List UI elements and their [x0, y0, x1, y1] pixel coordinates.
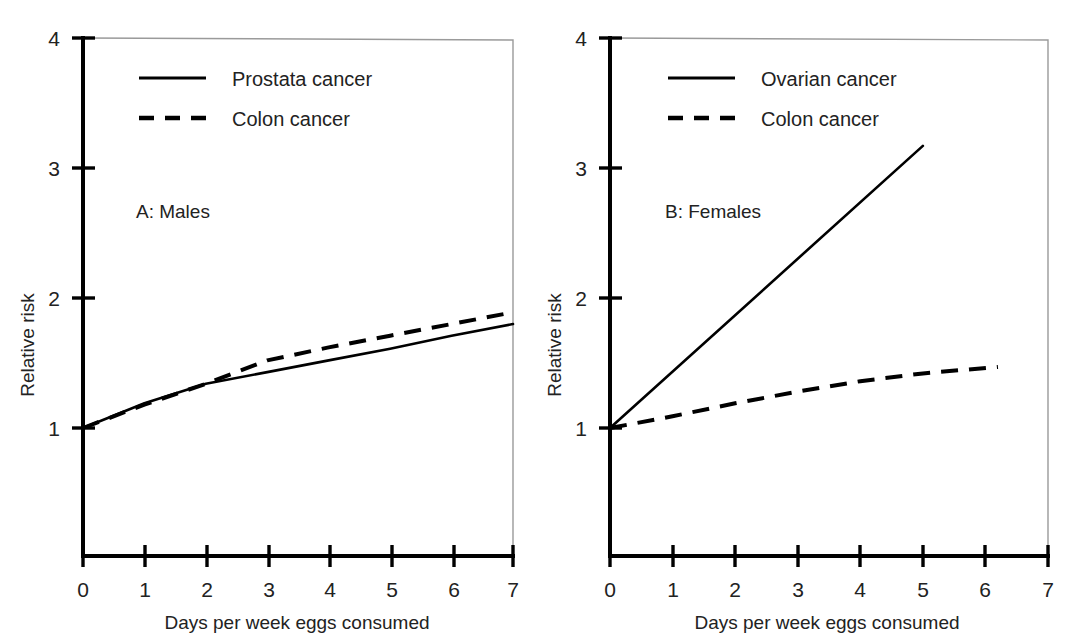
y-tick-label-4-a: 4	[48, 27, 60, 50]
x-tick-label-1-b: 1	[667, 578, 679, 601]
y-tick-label-4-b: 4	[575, 27, 587, 50]
y-tick-label-1-a: 1	[48, 417, 60, 440]
panel-a-males: 4 3 2 1 0 1 2 3 4 5 6 7 Days per week eg…	[0, 0, 533, 642]
panel-label-a: A: Males	[136, 201, 210, 222]
panel-a-svg: 4 3 2 1 0 1 2 3 4 5 6 7 Days per week eg…	[0, 0, 533, 642]
y-axis-title-b: Relative risk	[544, 293, 565, 397]
x-axis-title-a: Days per week eggs consumed	[164, 612, 429, 633]
x-tick-label-7-b: 7	[1042, 578, 1054, 601]
x-tick-label-6-a: 6	[448, 578, 460, 601]
x-tick-label-3-b: 3	[792, 578, 804, 601]
series-group-b	[610, 146, 998, 428]
series-line-colon-a	[83, 312, 513, 428]
x-tick-label-2-a: 2	[201, 578, 213, 601]
y-axis-title-a: Relative risk	[17, 293, 38, 397]
series-line-prostata-a	[83, 324, 513, 428]
x-tick-label-1-a: 1	[139, 578, 151, 601]
legend-label-ovarian: Ovarian cancer	[761, 68, 897, 90]
x-tick-label-2-b: 2	[729, 578, 741, 601]
x-tick-label-4-a: 4	[324, 578, 336, 601]
legend-label-colon-a: Colon cancer	[232, 108, 350, 130]
x-tick-label-7-a: 7	[507, 578, 519, 601]
y-tick-label-3-a: 3	[48, 157, 60, 180]
series-group-a	[83, 312, 513, 428]
x-tick-label-5-b: 5	[917, 578, 929, 601]
legend-label-prostata: Prostata cancer	[232, 68, 372, 90]
y-tick-label-2-a: 2	[48, 287, 60, 310]
y-tick-label-2-b: 2	[575, 287, 587, 310]
figure-eggs-cancer-relative-risk: 4 3 2 1 0 1 2 3 4 5 6 7 Days per week eg…	[0, 0, 1066, 642]
x-tick-label-4-b: 4	[854, 578, 866, 601]
x-tick-label-0-b: 0	[604, 578, 616, 601]
x-tick-label-3-a: 3	[263, 578, 275, 601]
x-tick-label-0-a: 0	[77, 578, 89, 601]
y-tick-label-1-b: 1	[575, 417, 587, 440]
x-tick-label-6-b: 6	[979, 578, 991, 601]
panel-b-females: 4 3 2 1 0 1 2 3 4 5 6 7 Days per week eg…	[533, 0, 1066, 642]
x-tick-label-5-a: 5	[386, 578, 398, 601]
legend-label-colon-b: Colon cancer	[761, 108, 879, 130]
y-tick-label-3-b: 3	[575, 157, 587, 180]
x-axis-title-b: Days per week eggs consumed	[694, 612, 959, 633]
legend-b: Ovarian cancer Colon cancer	[668, 68, 897, 130]
series-line-ovarian-b	[610, 146, 923, 428]
panel-label-b: B: Females	[665, 201, 761, 222]
legend-a: Prostata cancer Colon cancer	[139, 68, 372, 130]
panel-b-svg: 4 3 2 1 0 1 2 3 4 5 6 7 Days per week eg…	[533, 0, 1066, 642]
